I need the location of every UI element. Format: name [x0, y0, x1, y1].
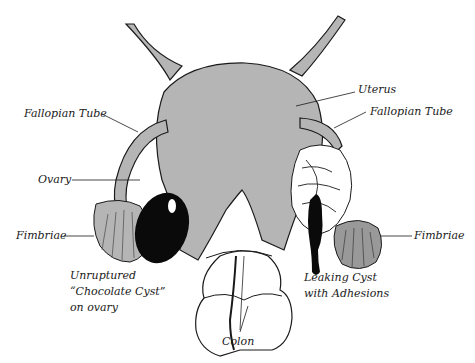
- label-chocolate-cyst-2: “Chocolate Cyst”: [70, 284, 165, 300]
- label-chocolate-cyst-3: on ovary: [70, 300, 118, 316]
- cyst-highlight: [168, 199, 176, 213]
- leader-fallopian-left: [102, 114, 138, 132]
- label-ovary: Ovary: [38, 172, 71, 188]
- label-fimbriae-left: Fimbriae: [16, 228, 66, 244]
- label-colon: Colon: [222, 334, 254, 350]
- right-fimbriae: [334, 220, 382, 268]
- endometriosis-diagram: Fallopian Tube Ovary Fimbriae Unruptured…: [0, 0, 475, 363]
- leader-fallopian-right: [334, 112, 366, 128]
- label-fimbriae-right: Fimbriae: [414, 228, 464, 244]
- label-uterus: Uterus: [358, 82, 396, 98]
- right-round-ligament: [290, 16, 345, 76]
- label-leaking-cyst-2: with Adhesions: [304, 286, 389, 302]
- label-chocolate-cyst-1: Unruptured: [70, 268, 136, 284]
- label-fallopian-tube-left: Fallopian Tube: [24, 106, 107, 122]
- left-round-ligament: [126, 24, 182, 80]
- label-fallopian-tube-right: Fallopian Tube: [370, 104, 453, 120]
- label-leaking-cyst-1: Leaking Cyst: [304, 270, 377, 286]
- leaking-cyst: [308, 194, 323, 275]
